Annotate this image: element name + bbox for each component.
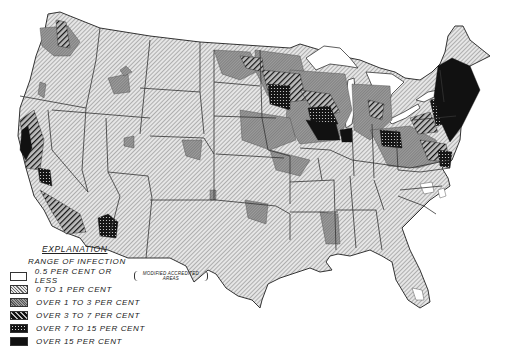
legend-item-0-to-1: 0 TO 1 PER CENT <box>10 284 112 294</box>
swatch-solid <box>10 337 28 346</box>
us-infection-map <box>0 0 526 347</box>
legend-label: OVER 15 PER CENT <box>36 337 122 346</box>
swatch-stipple <box>10 298 28 307</box>
legend-label: 0.5 PER CENT OR LESS <box>35 267 130 285</box>
swatch-heavy-hatch <box>10 311 28 320</box>
swatch-light-hatch <box>10 285 28 294</box>
legend-title: EXPLANATION <box>42 244 108 254</box>
legend-item-1-to-3: OVER 1 TO 3 PER CENT <box>10 297 140 307</box>
legend-subtitle: RANGE OF INFECTION <box>28 257 126 266</box>
swatch-dotted <box>10 324 28 333</box>
legend-item-7-to-15: OVER 7 TO 15 PER CENT <box>10 323 145 333</box>
legend-label: 0 TO 1 PER CENT <box>36 285 112 294</box>
legend-label: OVER 3 TO 7 PER CENT <box>36 311 140 320</box>
legend-label: OVER 7 TO 15 PER CENT <box>36 324 145 333</box>
legend-label: OVER 1 TO 3 PER CENT <box>36 298 140 307</box>
legend-item-over-15: OVER 15 PER CENT <box>10 336 122 346</box>
legend-item-under-0-5: 0.5 PER CENT OR LESS MODIFIED ACCREDITED… <box>10 271 208 281</box>
legend-item-3-to-7: OVER 3 TO 7 PER CENT <box>10 310 140 320</box>
swatch-blank <box>10 272 27 281</box>
legend-note: MODIFIED ACCREDITED AREAS <box>134 271 208 281</box>
